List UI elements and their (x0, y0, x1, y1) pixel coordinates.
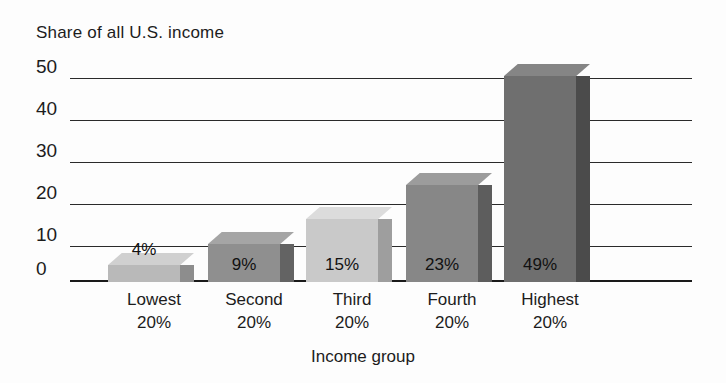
bar-value-label: 23% (406, 255, 478, 275)
bar-top-face (306, 207, 392, 219)
bar-top-face (406, 173, 492, 185)
category-label-line1: Highest (521, 290, 579, 309)
category-label-line1: Third (333, 290, 372, 309)
category-label-line2: 20% (488, 311, 612, 334)
bar-group-second[interactable]: 9% (208, 72, 300, 282)
bar-chart-figure: Share of all U.S. income 50 40 30 20 10 … (0, 0, 726, 383)
category-label-highest: Highest 20% (488, 288, 612, 334)
y-axis-tick-labels: 50 40 30 20 10 0 (36, 70, 70, 282)
bar-value-label: 4% (108, 240, 180, 260)
bar-group-highest[interactable]: 49% (504, 72, 596, 282)
bar-lowest[interactable] (108, 265, 180, 282)
y-tick-label: 20 (36, 182, 70, 204)
bar-top-face (208, 232, 294, 244)
y-tick-label: 50 (36, 56, 70, 78)
y-tick-label: 0 (36, 258, 70, 280)
bar-top-face (504, 64, 590, 76)
bar-group-lowest[interactable]: 4% (108, 72, 200, 282)
bar-group-fourth[interactable]: 23% (406, 72, 498, 282)
bar-front-face (504, 76, 576, 282)
bar-value-label: 49% (504, 255, 576, 275)
bar-side-face (280, 244, 294, 282)
chart-title: Share of all U.S. income (36, 23, 224, 43)
bar-side-face (576, 76, 590, 282)
y-tick-label: 40 (36, 98, 70, 120)
category-label-line1: Lowest (127, 290, 181, 309)
category-label-line1: Second (225, 290, 283, 309)
y-tick-label: 30 (36, 140, 70, 162)
bars-layer: 4% 9% 15% 2 (70, 70, 692, 282)
category-label-line1: Fourth (427, 290, 476, 309)
bar-highest[interactable] (504, 76, 576, 282)
y-tick-label: 10 (36, 224, 70, 246)
x-axis-category-labels: Lowest 20% Second 20% Third 20% Fourth 2… (70, 288, 692, 344)
x-axis-title: Income group (0, 347, 726, 367)
bar-side-face (478, 185, 492, 282)
bar-front-face (108, 265, 180, 282)
bar-side-face (378, 219, 392, 282)
bar-value-label: 15% (306, 255, 378, 275)
bar-value-label: 9% (208, 255, 280, 275)
bar-side-face (180, 265, 194, 282)
bar-group-third[interactable]: 15% (306, 72, 398, 282)
